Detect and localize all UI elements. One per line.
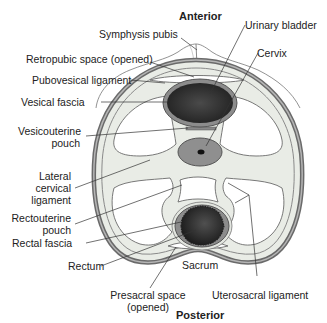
label-symphysis-pubis: Symphysis pubis	[99, 28, 178, 40]
label-vesicouterine-pouch: Vesicouterine pouch	[18, 125, 80, 149]
label-sacrum: Sacrum	[182, 259, 218, 271]
label-pubovesical-ligament: Pubovesical ligament	[32, 74, 131, 86]
label-urinary-bladder: Urinary bladder	[245, 19, 317, 31]
label-posterior: Posterior	[176, 309, 224, 321]
label-rectal-fascia: Rectal fascia	[12, 237, 72, 249]
label-anterior: Anterior	[179, 10, 222, 22]
label-lateral-cervical-ligament: Lateral cervical ligament	[18, 170, 71, 206]
urinary-bladder	[163, 79, 237, 127]
pelvic-cross-section-diagram: Anterior Symphysis pubis Retropubic spac…	[0, 0, 327, 323]
label-rectouterine-pouch: Rectouterine pouch	[6, 212, 71, 236]
cervix	[178, 138, 222, 166]
label-uterosacral-ligament: Uterosacral ligament	[212, 289, 308, 301]
label-retropubic-space: Retropubic space (opened)	[26, 53, 153, 65]
label-cervix: Cervix	[257, 47, 287, 59]
rectum	[172, 202, 232, 250]
label-vesical-fascia: Vesical fascia	[21, 96, 85, 108]
label-rectum: Rectum	[68, 260, 104, 272]
